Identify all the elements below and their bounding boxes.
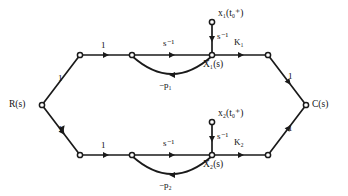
signal-flow-graph-figure: R(s) C(s) X₁(s) X₂(s) x₁(t₀⁺) x₂(t₀⁺) 1 … <box>0 0 348 196</box>
gain-label-b1-x1: s⁻¹ <box>163 39 174 48</box>
gain-label-d1-c: 1 <box>288 72 293 81</box>
gain-label-r-a2: 1 <box>58 125 63 134</box>
node-r <box>39 102 44 107</box>
node-x2 <box>209 152 214 157</box>
gain-label-feedback-1: −p₁ <box>159 81 172 90</box>
node-a1 <box>77 52 82 57</box>
gain-label-i1-x1: s⁻¹ <box>217 32 228 41</box>
gain-label-x1-d1: K₁ <box>234 38 244 47</box>
gain-label-a1-b1: 1 <box>101 41 106 50</box>
gain-label-i2-x2: s⁻¹ <box>217 132 228 141</box>
node-ic2 <box>209 119 214 124</box>
node-ic1 <box>209 19 214 24</box>
node-label-state-1: X₁(s) <box>203 60 223 70</box>
arrowheads <box>59 36 293 178</box>
gain-label-d2-c: 1 <box>288 124 293 133</box>
node-c <box>303 102 308 107</box>
node-label-initial-condition-1: x₁(t₀⁺) <box>218 9 243 19</box>
node-b2 <box>129 152 134 157</box>
gain-label-r-a1: 1 <box>58 74 63 83</box>
branch-x1-b1-arc <box>132 56 212 74</box>
gain-label-a2-b2: 1 <box>101 141 106 150</box>
node-a2 <box>77 152 82 157</box>
node-b1 <box>129 52 134 57</box>
graph-canvas <box>0 0 348 196</box>
node-label-source: R(s) <box>9 100 25 110</box>
node-label-state-2: X₂(s) <box>203 160 223 170</box>
branch-x2-b2-arc <box>132 156 212 174</box>
node-label-initial-condition-2: x₂(t₀⁺) <box>218 109 243 119</box>
gain-label-b2-x2: s⁻¹ <box>163 139 174 148</box>
node-d1 <box>265 52 270 57</box>
gain-label-x2-d2: K₂ <box>234 138 244 147</box>
node-x1 <box>209 52 214 57</box>
node-d2 <box>265 152 270 157</box>
node-label-sink: C(s) <box>312 100 328 110</box>
gain-label-feedback-2: −p₂ <box>159 181 172 190</box>
